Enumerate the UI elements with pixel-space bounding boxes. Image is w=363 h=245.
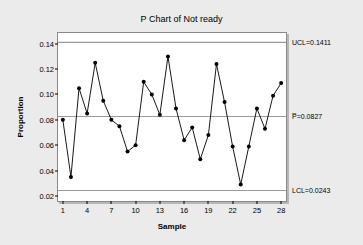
x-tick-mark <box>184 201 185 204</box>
x-tick-mark <box>208 201 209 204</box>
x-tick-label: 16 <box>180 206 188 215</box>
y-tick-mark <box>55 170 58 171</box>
y-tick-mark <box>55 195 58 196</box>
x-axis-label: Sample <box>158 222 186 231</box>
x-tick-mark <box>281 201 282 204</box>
series-plot <box>58 33 286 201</box>
limit-label-lcl: LCL=0.0243 <box>292 187 330 194</box>
data-point <box>190 125 194 129</box>
data-point <box>158 113 162 117</box>
data-point <box>150 92 154 96</box>
data-point <box>223 100 227 104</box>
limit-label-center: P̅=0.0827 <box>292 113 322 120</box>
data-point <box>93 61 97 65</box>
data-point <box>255 106 259 110</box>
data-point <box>263 127 267 131</box>
data-point <box>231 144 235 148</box>
control-limit-lines <box>58 42 286 190</box>
x-tick-label: 4 <box>85 206 89 215</box>
x-tick-mark <box>232 201 233 204</box>
y-tick-mark <box>55 69 58 70</box>
data-point <box>61 118 65 122</box>
y-tick-label: 0.12 <box>39 65 54 74</box>
plot-area: 0.020.040.060.080.100.120.14 14710131619… <box>57 32 287 202</box>
y-tick-mark <box>55 145 58 146</box>
data-point <box>85 112 89 116</box>
limit-label-ucl: UCL=0.1411 <box>292 39 331 46</box>
x-tick-label: 22 <box>228 206 236 215</box>
x-tick-mark <box>87 201 88 204</box>
x-tick-label: 7 <box>109 206 113 215</box>
y-tick-label: 0.06 <box>39 141 54 150</box>
data-point <box>101 99 105 103</box>
data-point <box>182 138 186 142</box>
y-tick-label: 0.14 <box>39 39 54 48</box>
series-markers <box>61 54 283 186</box>
x-tick-label: 13 <box>156 206 164 215</box>
x-tick-label: 10 <box>131 206 139 215</box>
p-chart-figure: P Chart of Not ready Proportion Sample 0… <box>0 0 363 245</box>
y-tick-mark <box>55 43 58 44</box>
data-point <box>174 106 178 110</box>
y-tick-mark <box>55 94 58 95</box>
y-tick-mark <box>55 119 58 120</box>
data-point <box>77 86 81 90</box>
data-point <box>214 62 218 66</box>
x-tick-mark <box>256 201 257 204</box>
x-tick-label: 1 <box>61 206 65 215</box>
y-axis-label: Proportion <box>16 97 25 138</box>
x-tick-label: 25 <box>253 206 261 215</box>
x-tick-mark <box>135 201 136 204</box>
x-tick-mark <box>159 201 160 204</box>
data-point <box>206 133 210 137</box>
y-tick-label: 0.10 <box>39 90 54 99</box>
x-tick-label: 28 <box>277 206 285 215</box>
data-point <box>198 157 202 161</box>
data-point <box>239 183 243 187</box>
data-point <box>134 143 138 147</box>
x-tick-mark <box>62 201 63 204</box>
chart-title: P Chart of Not ready <box>0 14 363 24</box>
data-point <box>117 124 121 128</box>
x-tick-mark <box>111 201 112 204</box>
data-point <box>69 175 73 179</box>
data-point <box>166 54 170 58</box>
data-point <box>247 144 251 148</box>
y-tick-label: 0.04 <box>39 166 54 175</box>
data-point <box>271 94 275 98</box>
y-tick-label: 0.02 <box>39 191 54 200</box>
data-point <box>142 80 146 84</box>
data-point <box>109 118 113 122</box>
data-point <box>279 81 283 85</box>
x-tick-label: 19 <box>204 206 212 215</box>
series-polyline <box>63 56 281 184</box>
y-tick-label: 0.08 <box>39 115 54 124</box>
data-point <box>126 150 130 154</box>
